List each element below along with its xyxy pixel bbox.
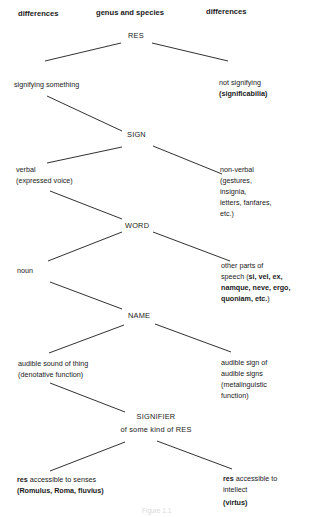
terms-si-vel-ex: si, vel, ex, [249,272,283,281]
node-sign: SIGN [127,129,146,140]
branch-intellect-line1-rest: accessible to [234,474,278,483]
node-signifier-line1: SIGNIFIER [96,411,216,422]
term-res-intellect: res [223,474,234,483]
branch-non-verbal-line1: non-verbal [220,164,272,175]
term-res-senses: res [17,475,28,484]
branch-other-parts-line1: other parts of [221,260,291,271]
node-name: NAME [128,310,150,321]
tree-connectors [0,0,317,517]
branch-audible-sound-line1: audible sound of thing [18,358,88,369]
branch-res-accessible-to-intellect: res accessible to intellect (virtus) [223,473,277,508]
terms-quoniam-etc: quoniam, etc. [221,294,267,303]
node-word: WORD [125,220,149,231]
branch-audible-sound-line2: (denotative function) [18,369,88,380]
edge-res-right [152,43,228,61]
branch-res-accessible-to-senses: res accessible to senses (Romulus, Roma,… [17,474,104,496]
header-left-differences: differences [18,8,59,19]
term-significabilia: (significabilia) [219,89,267,98]
branch-other-parts-line2-pre: speech ( [221,272,249,281]
node-signifier: SIGNIFIER of some kind of RES [96,411,216,435]
branch-non-verbal-line2: (gestures, [220,175,272,186]
node-res: RES [128,30,144,41]
branch-senses-line1-rest: accessible to senses [28,475,96,484]
node-signifier-line2: of some kind of RES [96,424,216,435]
branch-audible-sound-of-thing: audible sound of thing (denotative funct… [18,358,88,380]
edge-name-right [155,324,231,352]
branch-not-signifying-line1: not signifying [219,77,267,88]
branch-audible-sign-line2: audible signs [221,368,267,379]
branch-not-signifying: not signifying (significabilia) [219,77,267,99]
edge-signifier-left [50,442,125,471]
edge-noun-name [50,282,122,309]
branch-verbal: verbal (expressed voice) [16,164,73,186]
branch-other-parts-close-paren: ) [267,294,269,303]
terms-romulus-roma-fluvius: (Romulus, Roma, fluvius) [17,486,104,495]
header-genus-and-species: genus and species [96,7,164,18]
terms-namque-neve-ergo: namque, neve, ergo, [221,283,291,292]
term-virtus: (virtus) [223,498,247,507]
edge-signifying-sign [47,96,122,131]
branch-verbal-line1: verbal [16,164,73,175]
edge-name-left [49,325,124,353]
branch-verbal-line2: (expressed voice) [16,175,73,186]
edge-verbal-word [50,191,122,219]
branch-non-verbal-line3: insignia, [220,186,272,197]
edge-res-left [45,43,121,61]
branch-noun: noun [17,265,33,276]
header-right-differences: differences [206,6,247,17]
edge-audible-signifier [50,383,125,412]
branch-audible-sign-line3: (metalinguistic [221,379,267,390]
branch-audible-sign-line4: function) [221,390,267,401]
edge-signifier-right [157,441,232,469]
branch-audible-sign-of-audible-signs: audible sign of audible signs (metalingu… [221,357,267,401]
edge-sign-right [153,146,222,174]
branch-audible-sign-line1: audible sign of [221,357,267,368]
branch-non-verbal-line4: letters, fanfares, [220,197,272,208]
branch-intellect-line2: intellect [223,484,277,495]
branch-non-verbal: non-verbal (gestures, insignia, letters,… [220,164,272,219]
edge-word-right [153,232,230,261]
branch-non-verbal-line5: etc.) [220,208,272,219]
edge-sign-left [47,147,122,163]
branch-signifying-something: signifying something [14,79,79,90]
branch-other-parts-of-speech: other parts of speech (si, vel, ex, namq… [221,260,291,304]
edge-word-left [48,232,122,261]
figure-caption: Figure 1.1 [142,505,171,516]
